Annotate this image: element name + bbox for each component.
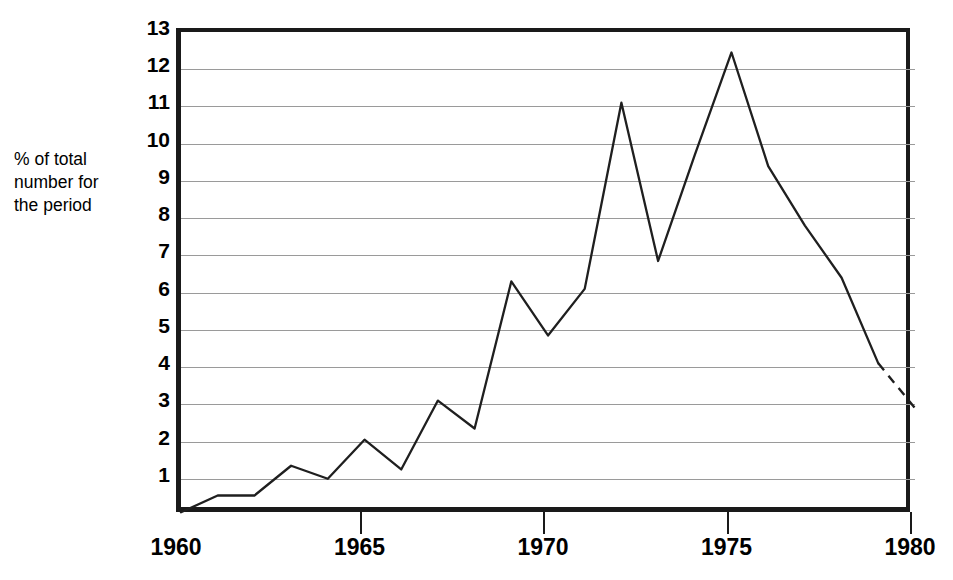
y-axis-tick-label: 9: [134, 166, 170, 187]
y-axis-tick-labels: 12345678910111213: [120, 0, 170, 580]
y-axis-tick-label: 2: [134, 427, 170, 448]
line-chart: % of total number for the period 1234567…: [0, 0, 953, 580]
x-axis-tick-label: 1970: [483, 536, 603, 559]
x-axis-tick-label: 1980: [850, 536, 953, 559]
y-axis-tick-label: 13: [134, 17, 170, 38]
data-line-solid: [181, 52, 878, 512]
data-line-projected-dashed: [878, 363, 915, 408]
x-axis-tick-mark: [727, 512, 729, 534]
x-axis-tick-mark: [543, 512, 545, 534]
plot-area: [181, 32, 915, 516]
y-axis-tick-label: 12: [134, 54, 170, 75]
y-axis-tick-label: 3: [134, 389, 170, 410]
x-axis-tick-mark: [360, 512, 362, 534]
y-axis-tick-label: 10: [134, 129, 170, 150]
plot-frame: [176, 28, 910, 512]
y-axis-tick-label: 8: [134, 203, 170, 224]
y-axis-tick-label: 5: [134, 315, 170, 336]
x-axis-tick-label: 1975: [667, 536, 787, 559]
y-axis-tick-label: 1: [134, 464, 170, 485]
y-axis-tick-label: 11: [134, 91, 170, 112]
y-axis-tick-label: 4: [134, 352, 170, 373]
x-axis-tick-mark: [910, 512, 912, 534]
x-axis-tick-label: 1965: [300, 536, 420, 559]
data-series-layer: [181, 32, 915, 516]
x-axis-tick-label: 1960: [116, 536, 236, 559]
y-axis-tick-label: 6: [134, 278, 170, 299]
y-axis-tick-label: 7: [134, 240, 170, 261]
